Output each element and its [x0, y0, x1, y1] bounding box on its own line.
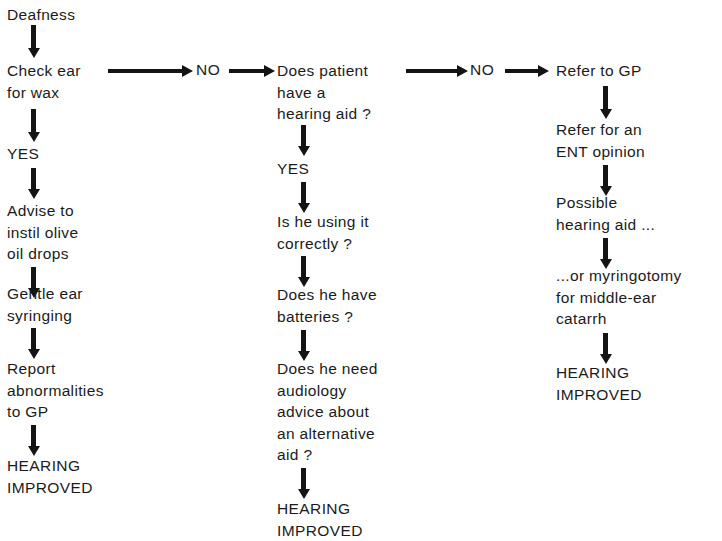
arrow-syringing-to-report — [31, 328, 36, 350]
branch-label-no-1: NO — [196, 61, 220, 79]
arrow-deafness-to-check-ear — [31, 25, 36, 49]
arrow-refer-gp-to-refer-ent — [603, 86, 608, 110]
node-does-he-have-batteries: Does he have batteries ? — [277, 284, 377, 327]
node-or-myringotomy-for-middle-ear-catarrh: ...or myringotomy for middle-ear catarrh — [556, 265, 682, 330]
node-report-abnormalities-to-gp: Report abnormalities to GP — [7, 358, 104, 423]
arrow-possible-aid-to-myringotomy — [603, 238, 608, 260]
arrow-no-2-to-refer-gp — [505, 69, 539, 73]
node-hearing-improved-referral: HEARING IMPROVED — [556, 362, 642, 405]
node-refer-to-gp: Refer to GP — [556, 60, 642, 82]
node-gentle-ear-syringing: Gentle ear syringing — [7, 283, 83, 326]
node-possible-hearing-aid: Possible hearing aid ... — [556, 192, 655, 235]
node-does-patient-have-hearing-aid: Does patient have a hearing aid ? — [277, 60, 371, 125]
node-advise-instil-olive-oil: Advise to instil olive oil drops — [7, 200, 78, 265]
arrow-hearing-aid-to-no-2 — [406, 69, 458, 73]
node-yes-wax: YES — [7, 143, 39, 165]
node-refer-for-ent-opinion: Refer for an ENT opinion — [556, 119, 645, 162]
arrow-myringotomy-to-hearing-improved — [603, 333, 608, 355]
node-yes-aid: YES — [277, 158, 309, 180]
branch-label-no-2: NO — [470, 61, 494, 79]
arrow-refer-ent-to-possible-aid — [603, 165, 608, 187]
arrow-check-ear-to-yes — [31, 109, 36, 133]
arrow-hearing-aid-to-yes — [301, 125, 306, 147]
arrow-no-1-to-hearing-aid — [229, 69, 265, 73]
arrow-check-ear-to-no-1 — [108, 69, 183, 73]
node-deafness: Deafness — [7, 4, 75, 26]
node-hearing-improved-aid: HEARING IMPROVED — [277, 498, 363, 541]
arrow-report-to-hearing-improved — [31, 425, 36, 447]
node-does-he-need-audiology-advice: Does he need audiology advice about an a… — [277, 358, 378, 466]
arrow-yes-to-using-correctly — [301, 182, 306, 204]
flowchart-canvas: Deafness Check ear for wax YES Advise to… — [0, 0, 722, 541]
arrow-yes-to-advise — [31, 168, 36, 190]
node-is-he-using-it-correctly: Is he using it correctly ? — [277, 211, 369, 254]
arrow-using-correctly-to-batteries — [301, 256, 306, 278]
arrow-audiology-to-hearing-improved — [301, 468, 306, 490]
arrow-batteries-to-audiology — [301, 330, 306, 352]
node-check-ear-for-wax: Check ear for wax — [7, 60, 81, 103]
node-hearing-improved-wax: HEARING IMPROVED — [7, 455, 93, 498]
